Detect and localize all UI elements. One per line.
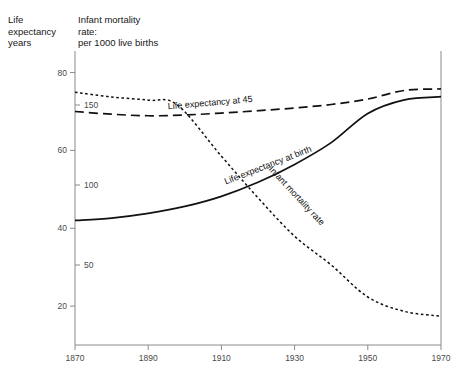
svg-text:80: 80: [58, 68, 68, 78]
svg-text:1930: 1930: [285, 353, 304, 363]
svg-text:1870: 1870: [66, 353, 85, 363]
svg-text:Life expectancy at 45: Life expectancy at 45: [167, 94, 253, 111]
svg-text:Infant mortality rate: Infant mortality rate: [267, 164, 327, 227]
svg-text:40: 40: [58, 223, 68, 233]
svg-text:1970: 1970: [432, 353, 451, 363]
svg-text:Life expectancy at birth: Life expectancy at birth: [223, 144, 313, 187]
svg-text:1910: 1910: [212, 353, 231, 363]
svg-text:50: 50: [84, 260, 94, 270]
chart-figure: Life expectancy years Infant mortality r…: [0, 0, 464, 380]
chart-ticks: 1870189019101930195019702040608050100150: [58, 68, 451, 363]
svg-text:100: 100: [84, 180, 98, 190]
svg-text:60: 60: [58, 145, 68, 155]
chart-series: [75, 89, 441, 316]
svg-text:150: 150: [84, 100, 98, 110]
svg-text:1890: 1890: [139, 353, 158, 363]
svg-text:1950: 1950: [358, 353, 377, 363]
chart-plot: 1870189019101930195019702040608050100150…: [0, 0, 464, 380]
svg-text:20: 20: [58, 301, 68, 311]
